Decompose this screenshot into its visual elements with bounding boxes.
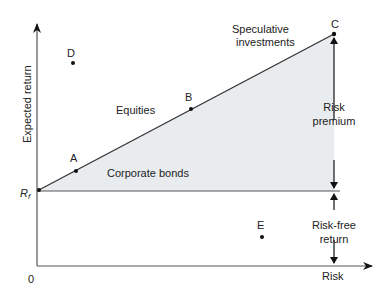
rf-label: Rf (20, 187, 31, 201)
point-d (71, 61, 75, 65)
point-rf (37, 188, 41, 192)
point-b (189, 107, 193, 111)
corporate-bonds-label: Corporate bonds (107, 167, 189, 179)
point-c (332, 32, 336, 36)
point-b-label: B (185, 91, 192, 103)
point-c-label: C (331, 18, 339, 30)
risk-free-label-line2: return (320, 233, 349, 245)
point-d-label: D (67, 47, 75, 59)
origin-label: 0 (28, 273, 34, 285)
x-axis-label: Risk (322, 270, 344, 282)
risk-premium-label-line2: premium (313, 115, 356, 127)
point-e-label: E (257, 219, 264, 231)
point-e (260, 235, 264, 239)
risk-return-diagram: A B C D E Corporate bonds Equities Specu… (0, 0, 392, 301)
risk-premium-label-line1: Risk (323, 101, 345, 113)
speculative-label-line2: investments (236, 36, 295, 48)
y-axis-label: Expected return (21, 65, 33, 143)
risk-free-label-line1: Risk-free (312, 219, 356, 231)
speculative-label-line1: Speculative (232, 23, 289, 35)
point-a-label: A (70, 152, 78, 164)
point-a (74, 169, 78, 173)
equities-label: Equities (116, 104, 156, 116)
